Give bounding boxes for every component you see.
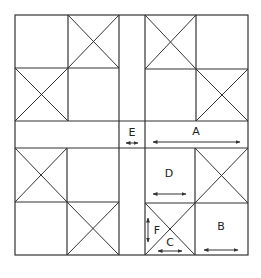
label-d: D xyxy=(165,167,173,180)
label-b: B xyxy=(217,220,225,233)
label-a: A xyxy=(192,125,200,138)
dimension-arrows xyxy=(126,142,240,251)
label-e: E xyxy=(129,126,136,139)
label-c: C xyxy=(166,236,174,249)
label-f: F xyxy=(154,224,160,237)
grid-diagram: E A D B F C xyxy=(0,0,261,278)
